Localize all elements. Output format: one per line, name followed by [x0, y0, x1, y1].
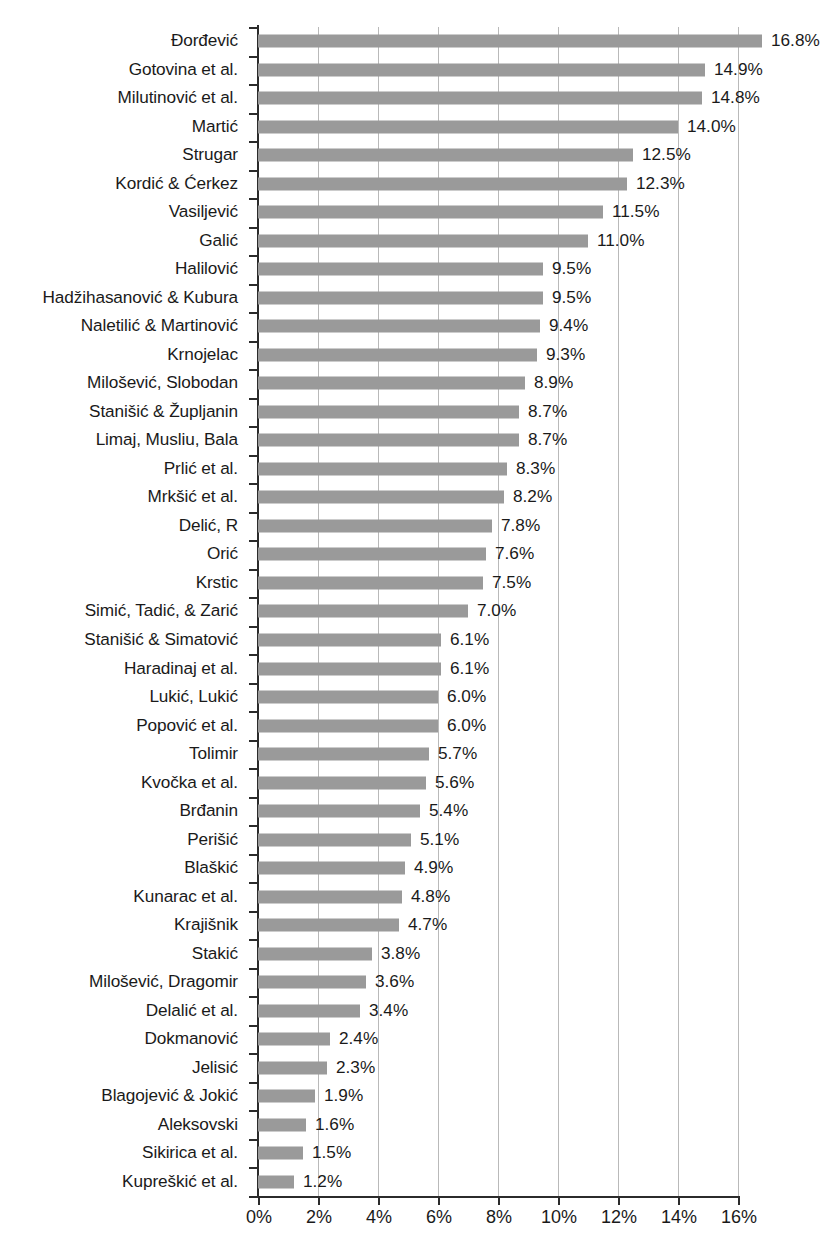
y-axis-tick: [249, 626, 258, 628]
category-label-row: Krstic: [0, 569, 238, 598]
category-label-row: Blagojević & Jokić: [0, 1082, 238, 1111]
category-label-row: Jelisić: [0, 1053, 238, 1082]
bar: [258, 320, 540, 333]
y-axis-tick: [249, 255, 258, 257]
category-label-row: Simić, Tadić, & Zarić: [0, 597, 238, 626]
y-axis-tick: [249, 683, 258, 685]
bar: [258, 919, 399, 932]
bar-value-label: 2.4%: [339, 1031, 378, 1048]
bar-row: 7.8%: [258, 512, 835, 541]
bar-value-label: 5.1%: [420, 831, 459, 848]
category-label: Jelisić: [192, 1059, 238, 1076]
y-axis-tick: [249, 540, 258, 542]
x-axis-tick: [438, 1196, 440, 1205]
bar: [258, 862, 405, 875]
bar-row: 8.9%: [258, 369, 835, 398]
y-axis-ticks: [249, 27, 258, 1196]
bar-value-label: 8.7%: [528, 432, 567, 449]
category-label: Aleksovski: [158, 1116, 238, 1133]
category-label: Martić: [192, 118, 238, 135]
category-label-row: Dokmanović: [0, 1025, 238, 1054]
bar: [258, 1033, 330, 1046]
y-axis-tick: [249, 939, 258, 941]
bar-value-label: 9.4%: [549, 318, 588, 335]
x-axis-tick-label: 8%: [486, 1207, 512, 1229]
bar-row: 8.7%: [258, 426, 835, 455]
y-axis-tick: [249, 369, 258, 371]
bar-row: 4.7%: [258, 911, 835, 940]
category-label-row: Tolimir: [0, 740, 238, 769]
bar: [258, 405, 519, 418]
bar-row: 12.3%: [258, 170, 835, 199]
x-axis-tick: [318, 1196, 320, 1205]
bar: [258, 519, 492, 532]
y-axis-tick: [249, 512, 258, 514]
bar: [258, 890, 402, 903]
bar-value-label: 5.6%: [435, 774, 474, 791]
bar-value-label: 9.3%: [546, 346, 585, 363]
bar: [258, 120, 678, 133]
x-axis-tick-labels: 0%2%4%6%8%10%12%14%16%: [258, 1207, 738, 1233]
y-axis-tick: [249, 797, 258, 799]
category-label-row: Strugar: [0, 141, 238, 170]
y-axis-tick: [249, 711, 258, 713]
bar-row: 14.0%: [258, 113, 835, 142]
bars-container: 16.8%14.9%14.8%14.0%12.5%12.3%11.5%11.0%…: [258, 27, 835, 1196]
y-axis-tick: [249, 398, 258, 400]
bar-value-label: 4.7%: [408, 917, 447, 934]
bar-value-label: 12.5%: [642, 147, 691, 164]
y-axis-tick: [249, 768, 258, 770]
bar-value-label: 5.4%: [429, 802, 468, 819]
bar-value-label: 8.3%: [516, 460, 555, 477]
category-label-row: Mrkšić et al.: [0, 483, 238, 512]
bar: [258, 833, 411, 846]
category-label: Krnojelac: [167, 346, 238, 363]
x-axis-tick-label: 0%: [246, 1207, 272, 1229]
bar-row: 1.2%: [258, 1167, 835, 1196]
category-label: Stakić: [192, 945, 238, 962]
bar: [258, 291, 543, 304]
bar-row: 9.4%: [258, 312, 835, 341]
bar: [258, 776, 426, 789]
y-axis-tick: [249, 1196, 258, 1198]
category-label: Simić, Tadić, & Zarić: [85, 603, 238, 620]
bar-value-label: 11.0%: [597, 232, 644, 249]
bar: [258, 947, 372, 960]
category-label-row: Hadžihasanović & Kubura: [0, 284, 238, 313]
category-label-row: Krnojelac: [0, 341, 238, 370]
y-axis-tick: [249, 825, 258, 827]
bar: [258, 748, 429, 761]
category-label: Dokmanović: [144, 1031, 238, 1048]
y-axis-category-labels: ĐorđevićGotovina et al.Milutinović et al…: [0, 27, 248, 1196]
category-label-row: Naletilić & Martinović: [0, 312, 238, 341]
category-label: Delić, R: [179, 517, 238, 534]
y-axis-tick: [249, 1167, 258, 1169]
x-axis-tick: [738, 1196, 740, 1205]
category-label: Kunarac et al.: [133, 888, 238, 905]
bar-row: 1.5%: [258, 1139, 835, 1168]
category-label: Gotovina et al.: [129, 61, 238, 78]
bar-row: 1.6%: [258, 1110, 835, 1139]
bar-value-label: 5.7%: [438, 745, 477, 762]
bar-row: 16.8%: [258, 27, 835, 56]
bar: [258, 63, 705, 76]
bar-value-label: 9.5%: [552, 289, 591, 306]
category-label: Lukić, Lukić: [149, 688, 238, 705]
category-label-row: Vasiljević: [0, 198, 238, 227]
y-axis-tick: [249, 27, 258, 29]
bar: [258, 263, 543, 276]
category-label: Blaškić: [184, 859, 238, 876]
category-label-row: Delić, R: [0, 512, 238, 541]
bar-row: 2.4%: [258, 1025, 835, 1054]
bar-value-label: 6.0%: [447, 688, 486, 705]
bar-value-label: 2.3%: [336, 1059, 375, 1076]
category-label: Kvočka et al.: [141, 774, 238, 791]
bar-value-label: 1.5%: [312, 1145, 351, 1162]
category-label: Tolimir: [189, 745, 238, 762]
bar: [258, 1061, 327, 1074]
y-axis-tick: [249, 455, 258, 457]
category-label-row: Delalić et al.: [0, 996, 238, 1025]
x-axis-tick-label: 6%: [426, 1207, 452, 1229]
bar-row: 3.8%: [258, 939, 835, 968]
bar-value-label: 7.6%: [495, 546, 534, 563]
